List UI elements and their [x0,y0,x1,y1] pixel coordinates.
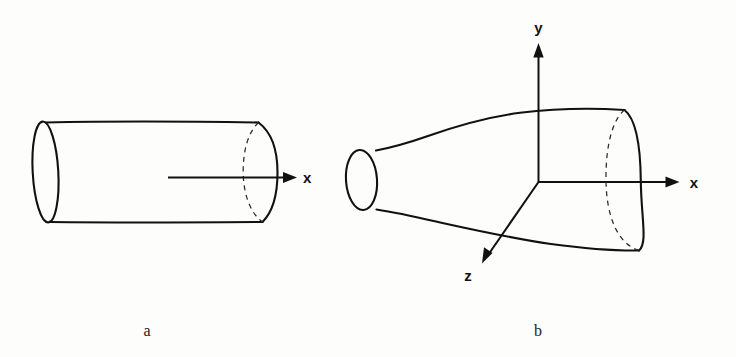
panel-a-upper-wall [46,122,259,123]
panel-b-upper-wall [376,109,625,151]
panel-b-x-axis-arrowhead [666,177,680,188]
panel-a-exit-rim-hidden-arc [243,123,262,223]
panel-b-lower-wall [377,210,640,251]
panel-b-throat-ellipse [344,149,379,211]
panel-b-exit-rim-hidden-arc [606,110,639,251]
figure-page: x a y x z [0,0,736,357]
panel-b-exit-rim-visible-arc [625,110,644,251]
panel-a-x-axis-arrowhead [283,172,297,183]
panel-b-y-axis-label: y [534,19,543,36]
duct-geometry-figure: x a y x z [0,0,736,357]
panel-a-x-axis-label: x [303,169,312,186]
panel-b-caption: b [534,322,542,339]
panel-a-exit-rim-visible-arc [259,123,278,223]
panel-b-group: y x z b [344,19,699,339]
panel-a-caption: a [143,322,150,339]
panel-b-z-axis-label: z [464,267,472,284]
panel-a-front-face-ellipse [30,121,61,223]
panel-b-y-axis-arrowhead [533,43,543,58]
panel-b-z-axis-line [487,182,539,257]
panel-b-x-axis-label: x [690,174,699,191]
panel-a-group: x a [30,121,312,339]
